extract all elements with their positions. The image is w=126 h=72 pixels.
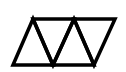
triangle-middle [33, 19, 74, 65]
triangle-far-right [74, 19, 115, 65]
triangle-right [53, 19, 94, 65]
triangle-parallelogram-diagram [0, 0, 126, 72]
triangle-left [13, 19, 53, 65]
